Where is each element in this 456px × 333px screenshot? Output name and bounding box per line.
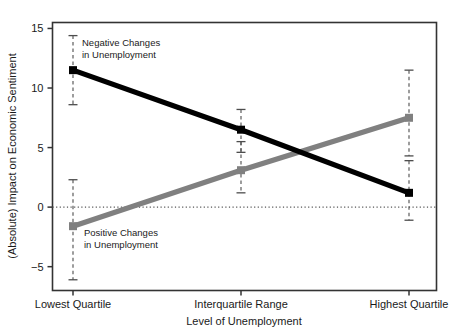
y-tick-label: 5 (37, 142, 43, 154)
y-axis-title: (Absolute) Impact on Economic Sentiment (6, 53, 18, 258)
positive-changes-label-line-2: in Unemployment (84, 239, 158, 250)
y-tick-label: 10 (31, 82, 43, 94)
x-axis-tick-labels: Lowest QuartileInterquartile RangeHighes… (35, 298, 449, 310)
x-axis-title: Level of Unemployment (186, 315, 302, 327)
positive-changes-label-line-1: Positive Changes (84, 227, 158, 238)
data-point-marker (237, 126, 245, 134)
x-tick-label-2: Interquartile Range (194, 298, 288, 310)
data-point-marker (69, 222, 77, 230)
data-point-marker (237, 166, 245, 174)
y-tick-label: −5 (31, 261, 44, 273)
x-tick-label-3: Highest Quartile (370, 298, 449, 310)
data-point-marker (405, 189, 413, 197)
chart-canvas: −5051015 Lowest QuartileInterquartile Ra… (0, 0, 456, 333)
y-tick-label: 0 (37, 201, 43, 213)
negative-changes-label-line-1: Negative Changes (82, 37, 160, 48)
negative-changes-label-line-2: in Unemployment (82, 49, 156, 60)
figure-background (0, 0, 456, 333)
y-tick-label: 15 (31, 22, 43, 34)
x-tick-label-1: Lowest Quartile (35, 298, 111, 310)
chart-figure: −5051015 Lowest QuartileInterquartile Ra… (0, 0, 456, 333)
data-point-marker (405, 114, 413, 122)
data-point-marker (69, 66, 77, 74)
